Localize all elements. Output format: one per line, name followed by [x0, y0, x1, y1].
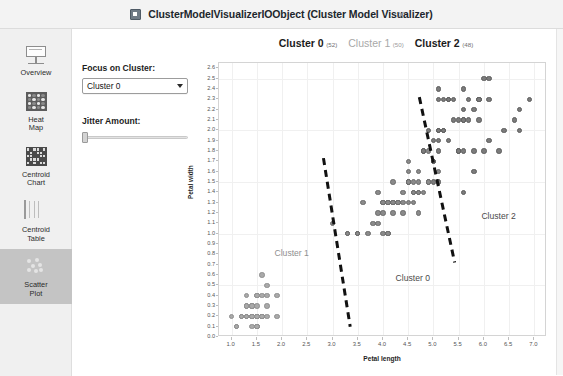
window-title: ClusterModelVisualizerIOObject (Cluster …: [148, 8, 433, 20]
sidebar-item-label: Centroid Chart: [22, 171, 50, 188]
y-axis-tick-label: 2.3: [192, 95, 218, 101]
y-axis-tick-label: 0.5: [192, 281, 218, 287]
y-axis-tick-label: 0.6: [192, 271, 218, 277]
legend-item[interactable]: Cluster 1(50): [348, 37, 404, 49]
cluster-annotation: Cluster 1: [275, 248, 309, 258]
x-axis-tick-mark: [407, 337, 408, 340]
y-axis-tick-label: 1.7: [192, 157, 218, 163]
sidebar-item-label: Heat Map: [28, 116, 44, 133]
y-axis-tick-label: 1.5: [192, 178, 218, 184]
sidebar-item-scatter-plot[interactable]: Scatter Plot: [0, 249, 72, 304]
scatter-plot-icon: [24, 256, 48, 278]
cluster0-cluster2-boundary: [419, 97, 454, 262]
x-axis-tick-mark: [306, 337, 307, 340]
focus-on-cluster-label: Focus on Cluster:: [82, 63, 190, 73]
focus-cluster-select[interactable]: Cluster 0: [82, 78, 188, 94]
y-axis-tick-label: 1.2: [192, 209, 218, 215]
sidebar-item-label: Overview: [21, 69, 52, 78]
y-axis-tick-label: 1.4: [192, 188, 218, 194]
cluster-annotation: Cluster 0: [396, 273, 430, 283]
scatter-plot-chart: Cluster 0(52)Cluster 1(50)Cluster 2(48) …: [190, 33, 562, 373]
y-axis-tick-label: 1.3: [192, 199, 218, 205]
sidebar-item-centroid-chart[interactable]: Centroid Chart: [0, 139, 72, 194]
cluster-annotation: Cluster 2: [481, 211, 515, 221]
chevron-down-icon: [177, 84, 183, 88]
slider-track: [82, 136, 188, 139]
y-axis-tick-label: 0.0: [192, 333, 218, 339]
x-axis-tick-mark: [432, 337, 433, 340]
x-axis-title: Petal length: [218, 355, 546, 362]
sidebar-item-heat-map[interactable]: Heat Map: [0, 84, 72, 139]
sidebar: Overview Heat Map: [0, 29, 72, 376]
x-axis-tick-mark: [256, 337, 257, 340]
cluster1-cluster0-boundary: [323, 158, 350, 327]
y-axis-tick-label: 2.5: [192, 75, 218, 81]
legend-label: Cluster 2: [415, 37, 460, 49]
y-axis-tick-label: 2.4: [192, 85, 218, 91]
y-axis-tick-label: 1.8: [192, 147, 218, 153]
window-titlebar: ClusterModelVisualizerIOObject (Cluster …: [0, 0, 563, 29]
jitter-amount-label: Jitter Amount:: [82, 116, 190, 126]
y-axis-tick-label: 1.0: [192, 230, 218, 236]
focus-cluster-value: Cluster 0: [87, 81, 177, 91]
legend-label: Cluster 0: [279, 37, 324, 49]
y-axis-tick-label: 0.7: [192, 261, 218, 267]
x-axis-tick-mark: [281, 337, 282, 340]
sidebar-item-label: Centroid Table: [22, 226, 50, 243]
y-axis-tick-label: 0.9: [192, 240, 218, 246]
sidebar-item-centroid-table[interactable]: Centroid Table: [0, 194, 72, 249]
y-axis-tick-label: 2.0: [192, 126, 218, 132]
slider-knob[interactable]: [82, 132, 88, 143]
sidebar-item-label: Scatter Plot: [24, 281, 47, 298]
app-window-icon: [130, 9, 141, 20]
y-axis-tick-label: 0.3: [192, 302, 218, 308]
close-icon[interactable]: ×: [394, 8, 408, 22]
y-axis-tick-mark: [216, 336, 219, 337]
x-axis-tick-mark: [458, 337, 459, 340]
legend-count: (48): [462, 41, 473, 48]
x-axis-tick-mark: [483, 337, 484, 340]
cluster-boundaries: [219, 63, 546, 336]
x-axis-tick-mark: [533, 337, 534, 340]
legend-count: (52): [326, 41, 337, 48]
legend-count: (50): [393, 41, 404, 48]
x-axis-tick-mark: [508, 337, 509, 340]
x-axis-tick-mark: [382, 337, 383, 340]
centroid-chart-icon: [24, 146, 48, 168]
legend-label: Cluster 1: [348, 37, 390, 49]
legend-item[interactable]: Cluster 2(48): [415, 37, 473, 49]
y-axis-tick-label: 2.1: [192, 116, 218, 122]
vertical-scrollbar[interactable]: [556, 29, 563, 375]
controls-panel: Focus on Cluster: Cluster 0 Jitter Amoun…: [82, 63, 190, 143]
x-axis-tick-label: 7.0: [518, 341, 548, 347]
y-axis-tick-label: 0.1: [192, 323, 218, 329]
sidebar-item-overview[interactable]: Overview: [0, 37, 72, 84]
x-axis-tick-mark: [231, 337, 232, 340]
legend-item[interactable]: Cluster 0(52): [279, 37, 337, 49]
x-axis-tick-mark: [357, 337, 358, 340]
y-axis-tick-label: 1.1: [192, 219, 218, 225]
heat-map-icon: [24, 91, 48, 113]
y-axis-tick-label: 2.2: [192, 106, 218, 112]
y-axis-tick-label: 2.6: [192, 64, 218, 70]
y-axis-tick-label: 1.6: [192, 168, 218, 174]
plot-area[interactable]: Cluster 1Cluster 0Cluster 2: [218, 62, 546, 336]
chart-legend: Cluster 0(52)Cluster 1(50)Cluster 2(48): [190, 37, 562, 49]
y-axis-tick-label: 0.4: [192, 292, 218, 298]
overview-icon: [24, 44, 48, 66]
y-axis-tick-label: 1.9: [192, 137, 218, 143]
jitter-amount-slider[interactable]: [82, 131, 188, 143]
cluster-model-visualizer-window: ClusterModelVisualizerIOObject (Cluster …: [0, 0, 563, 376]
x-axis-tick-mark: [332, 337, 333, 340]
y-axis-tick-label: 0.2: [192, 312, 218, 318]
y-axis-tick-label: 0.8: [192, 250, 218, 256]
centroid-table-icon: [24, 201, 48, 223]
